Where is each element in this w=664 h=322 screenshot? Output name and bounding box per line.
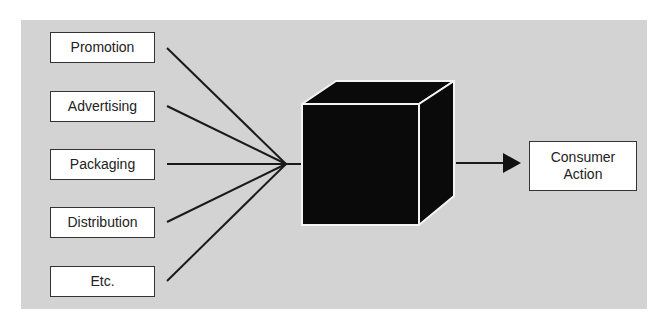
input-box-promotion: Promotion bbox=[50, 32, 155, 63]
input-label: Distribution bbox=[67, 214, 137, 231]
input-box-advertising: Advertising bbox=[50, 91, 155, 122]
black-box-cube bbox=[302, 81, 454, 225]
input-connector-lines bbox=[167, 48, 302, 281]
input-box-packaging: Packaging bbox=[50, 149, 155, 180]
output-box-consumer-action: Consumer Action bbox=[529, 141, 637, 191]
input-label: Etc. bbox=[90, 273, 114, 290]
output-arrow bbox=[456, 153, 521, 173]
connector-advertising bbox=[167, 106, 286, 164]
input-label: Packaging bbox=[70, 156, 135, 173]
connector-distribution bbox=[167, 164, 286, 222]
input-box-distribution: Distribution bbox=[50, 207, 155, 238]
connector-promotion bbox=[167, 48, 286, 164]
output-label-line1: Consumer bbox=[551, 149, 616, 166]
cube-front-face bbox=[302, 104, 419, 225]
input-box-etc: Etc. bbox=[50, 266, 155, 297]
input-label: Advertising bbox=[68, 98, 137, 115]
input-label: Promotion bbox=[71, 39, 135, 56]
cube-side-face bbox=[419, 81, 454, 225]
arrowhead-icon bbox=[503, 153, 521, 173]
output-label-line2: Action bbox=[564, 166, 603, 183]
connector-etc bbox=[167, 164, 286, 281]
